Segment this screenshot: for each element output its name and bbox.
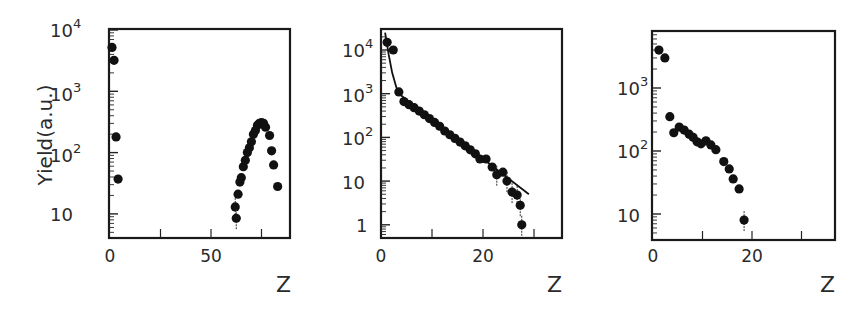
y-tick-label: 104 <box>342 36 373 61</box>
x-tick-label: 50 <box>200 246 222 266</box>
data-point <box>111 132 120 141</box>
y-tick-label: 102 <box>617 137 648 162</box>
data-point <box>389 45 398 54</box>
panel-3: 02010310210Z <box>617 31 835 297</box>
data-point <box>231 202 240 211</box>
y-axis-label: Yield(a.u.) <box>33 85 57 187</box>
x-tick-label: 0 <box>105 246 116 266</box>
plot-frame <box>652 31 835 240</box>
panel-2: 020104103102101Z <box>342 29 562 297</box>
data-point <box>735 184 744 193</box>
data-point <box>665 112 674 121</box>
data-point <box>711 145 720 154</box>
data-point <box>232 214 241 223</box>
panel-1: 05010410310210Z <box>50 16 291 297</box>
y-tick-label: 102 <box>342 124 373 149</box>
data-point <box>107 43 116 52</box>
data-point <box>729 174 738 183</box>
figure: 05010410310210Z020104103102101Z020103102… <box>0 0 862 323</box>
data-point <box>273 182 282 191</box>
data-point <box>233 190 242 199</box>
data-point <box>719 157 728 166</box>
plot-frame <box>109 29 290 238</box>
data-point <box>261 123 270 132</box>
data-point <box>237 173 246 182</box>
data-point <box>517 220 526 229</box>
data-point <box>269 160 278 169</box>
data-point <box>113 174 122 183</box>
plot-frame <box>381 29 562 238</box>
fit-curve <box>385 33 529 195</box>
y-tick-label: 10 <box>617 205 640 226</box>
x-tick-label: 0 <box>648 246 659 266</box>
y-tick-label: 104 <box>50 16 81 41</box>
y-tick-label: 1 <box>356 215 367 236</box>
data-point <box>660 53 669 62</box>
data-point <box>267 146 276 155</box>
y-tick-label: 10 <box>50 204 73 225</box>
x-axis-label: Z <box>276 272 291 297</box>
data-point <box>654 45 663 54</box>
data-point <box>516 201 525 210</box>
x-tick-label: 20 <box>472 246 494 266</box>
x-tick-label: 20 <box>741 246 763 266</box>
x-tick-label: 0 <box>376 246 387 266</box>
data-point <box>739 216 748 225</box>
y-tick-label: 103 <box>342 81 373 106</box>
x-axis-label: Z <box>547 272 562 297</box>
data-point <box>725 164 734 173</box>
data-point <box>265 131 274 140</box>
y-tick-label: 103 <box>617 74 648 99</box>
data-point <box>109 56 118 65</box>
y-tick-label: 10 <box>342 172 365 193</box>
x-axis-label: Z <box>820 272 835 297</box>
